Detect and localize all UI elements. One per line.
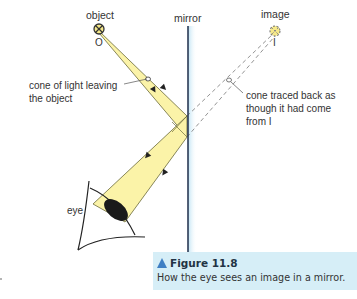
mirror-glow [188,26,197,258]
triangle-icon [157,258,167,268]
object-point-label: O [95,37,103,48]
cone-traced-label-line3: from I [246,116,272,127]
eye-label: eye [67,205,84,216]
cone-traced-label-line1: cone traced back as [246,90,336,101]
cone-leaving-label-line1: cone of light leaving [29,80,117,91]
caption-title-row: Figure 11.8 [157,256,357,270]
object-label: object [86,9,114,21]
caption-text: How the eye sees an image in a mirror. [157,271,357,285]
cone-leaving-label-line2: the object [29,93,73,104]
figure-caption: Figure 11.8 How the eye sees an image in… [153,252,357,290]
cone-traced-label-line2: though it had come [246,103,331,114]
mirror-label: mirror [174,12,202,24]
leader-line [231,82,243,93]
image-symbol [270,26,280,36]
cone-marker [227,78,232,82]
image-label: image [261,8,290,20]
image-point-label: I [273,37,276,48]
object-symbol [94,24,104,34]
stray-dot [0,278,2,280]
caption-title: Figure 11.8 [170,256,238,270]
